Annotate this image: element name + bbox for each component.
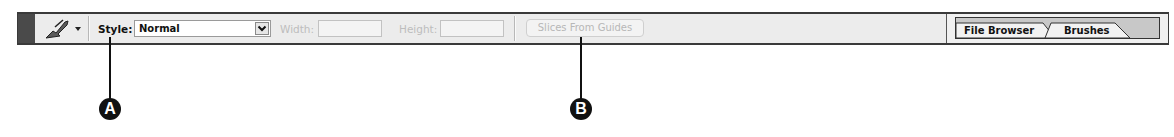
width-field[interactable] xyxy=(318,20,382,37)
tool-preset-dropdown-icon[interactable] xyxy=(75,27,81,31)
options-bar: Style: Normal Width: Height: Slices From… xyxy=(17,12,1169,45)
divider xyxy=(88,16,90,41)
callout-b-badge: B xyxy=(570,98,592,120)
callout-a-line xyxy=(109,37,111,100)
callout-a-badge: A xyxy=(99,98,121,120)
callout-b-line xyxy=(580,37,582,100)
tab-brushes[interactable]: Brushes xyxy=(1064,23,1109,38)
style-select-value: Normal xyxy=(139,23,180,34)
width-label: Width: xyxy=(280,23,314,35)
style-select[interactable]: Normal xyxy=(134,20,271,37)
palette-well-tabs: File Browser Brushes xyxy=(955,17,1160,39)
palette-well: File Browser Brushes xyxy=(946,14,1168,43)
options-bar-grip[interactable] xyxy=(18,14,35,43)
style-label: Style: xyxy=(98,23,132,35)
height-field[interactable] xyxy=(440,20,504,37)
tab-file-browser[interactable]: File Browser xyxy=(964,23,1034,38)
chevron-down-icon[interactable] xyxy=(255,22,269,35)
height-label: Height: xyxy=(399,23,437,35)
slices-from-guides-button[interactable]: Slices From Guides xyxy=(526,19,644,37)
slice-select-tool-icon[interactable] xyxy=(43,17,71,41)
divider xyxy=(514,16,516,41)
